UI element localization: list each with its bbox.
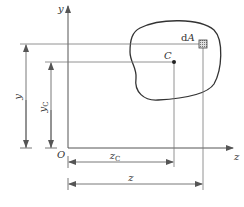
svg-text:y: y	[12, 94, 23, 101]
zc-dimension-label: zC	[109, 150, 121, 163]
z-axis-label: z	[233, 151, 240, 162]
y-dimension-label: y	[12, 94, 23, 101]
centroid-label: C	[164, 50, 172, 61]
svg-text:yC: yC	[37, 101, 50, 113]
dA-label: dA	[181, 32, 195, 43]
region-boundary	[130, 21, 221, 100]
area-element	[199, 40, 207, 48]
z-dimension-label: z	[127, 172, 134, 183]
yc-dimension-label: yC	[37, 101, 50, 113]
dA-label-A: A	[186, 32, 194, 43]
origin-label: O	[57, 149, 65, 160]
centroid-diagram: y z O dA C y yC zC z	[0, 0, 244, 207]
y-axis-label: y	[57, 3, 64, 14]
centroid-point	[172, 60, 176, 64]
